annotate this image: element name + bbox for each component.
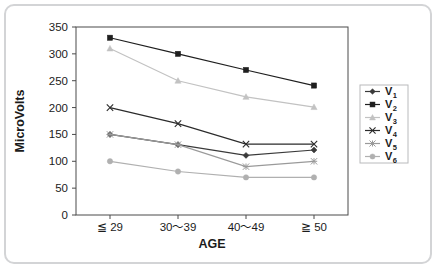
data-point-marker (107, 35, 112, 40)
legend-box (360, 85, 408, 163)
data-point-marker (243, 152, 249, 158)
x-tick-label: 30〜39 (160, 221, 197, 233)
series-line (110, 38, 314, 86)
y-tick-label: 350 (49, 21, 68, 33)
y-tick-label: 0 (62, 209, 68, 221)
x-tick-label: ≧ 50 (301, 221, 327, 233)
series-line (110, 134, 314, 155)
data-point-marker (243, 175, 248, 180)
legend-label-subscript: 1 (393, 91, 397, 100)
x-tick-label: 40〜49 (228, 221, 265, 233)
line-chart: 050100150200250300350 ≦ 2930〜3940〜49≧ 50… (0, 0, 438, 270)
chart-legend: V1V2V3V4V5V6 (360, 85, 408, 165)
data-point-marker (243, 163, 249, 169)
data-point-marker (107, 131, 113, 137)
y-axis-tickmarks (72, 27, 76, 215)
series-v1 (107, 131, 317, 158)
x-axis-tick-labels: ≦ 2930〜3940〜49≧ 50 (97, 221, 327, 233)
legend-label-subscript: 5 (393, 143, 397, 152)
series-v4 (107, 104, 317, 147)
series-v3 (107, 45, 317, 109)
y-axis-title: MicroVolts (13, 89, 27, 152)
data-point-marker (370, 154, 375, 159)
data-point-marker (175, 78, 181, 84)
data-point-marker (175, 169, 180, 174)
y-tick-label: 50 (55, 182, 68, 194)
data-point-marker (243, 67, 248, 72)
y-tick-label: 300 (49, 48, 68, 60)
plot-area-border (76, 27, 348, 215)
data-point-marker (311, 147, 317, 153)
x-axis-title: AGE (198, 237, 225, 251)
data-point-marker (311, 158, 317, 164)
legend-label-subscript: 6 (393, 156, 397, 165)
y-axis-tick-labels: 050100150200250300350 (49, 21, 68, 221)
data-point-marker (311, 83, 316, 88)
legend-label-subscript: 3 (393, 117, 397, 126)
y-tick-label: 250 (49, 75, 68, 87)
series-line (110, 48, 314, 107)
y-tick-label: 100 (49, 155, 68, 167)
data-point-marker (311, 175, 316, 180)
x-tick-label: ≦ 29 (97, 221, 123, 233)
data-point-marker (369, 140, 375, 146)
data-point-marker (107, 45, 113, 51)
y-tick-label: 150 (49, 128, 68, 140)
data-point-marker (175, 141, 181, 147)
data-point-marker (107, 159, 112, 164)
legend-label-subscript: 2 (393, 104, 397, 113)
data-point-marker (370, 102, 375, 107)
series-layer (107, 35, 317, 180)
y-tick-label: 200 (49, 102, 68, 114)
data-point-marker (175, 51, 180, 56)
x-axis-tickmarks (110, 215, 314, 219)
series-v6 (107, 159, 316, 181)
